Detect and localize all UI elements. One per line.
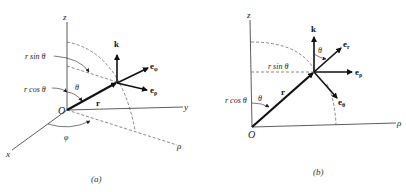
rho-label-b: ρ	[396, 118, 402, 128]
z-axis-b	[250, 20, 252, 127]
x-axis-a	[12, 110, 67, 150]
theta-label-b: θ	[258, 94, 262, 103]
theta-label-a: θ	[75, 83, 79, 92]
r-cos-leader-a	[52, 88, 67, 92]
r-sin-theta-label-b: r sin θ	[268, 62, 288, 71]
panel-a: z y x ρ O r r sin θ r cos θ θ φ k eφ eρ …	[5, 12, 188, 184]
z-label-a: z	[62, 12, 67, 22]
rho-axis-a	[67, 110, 177, 145]
r-sin-theta-label-a: r sin θ	[25, 52, 45, 61]
rho-axis-b	[252, 123, 396, 127]
e-rho-label-a: eρ	[150, 85, 157, 96]
z-label-b: z	[246, 10, 251, 20]
r-label-a: r	[96, 98, 100, 108]
theta-arc-a	[67, 92, 82, 101]
r-cos-theta-label-b: r cos θ	[225, 96, 247, 105]
arc-b-lower	[327, 84, 336, 125]
r-sin-leader-a	[54, 56, 89, 72]
r-label-b: r	[281, 87, 285, 97]
r-cos-theta-label-a: r cos θ	[24, 85, 46, 94]
origin-label-b: O	[248, 129, 255, 140]
caption-a: (a)	[91, 174, 102, 184]
e-phi-label-a: eφ	[150, 61, 158, 72]
r-sin-dash-a	[67, 66, 117, 82]
phi-label-a: φ	[64, 133, 69, 142]
spherical-coordinates-figure: z y x ρ O r r sin θ r cos θ θ φ k eφ eρ …	[0, 0, 406, 192]
x-label-a: x	[5, 149, 10, 159]
e-r-label-b: er	[343, 39, 350, 50]
y-label-a: y	[183, 102, 188, 112]
panel-b: z ρ O r r sin θ r cos θ θ θ k er eρ eθ (…	[225, 10, 402, 177]
k-label-a: k	[114, 39, 119, 49]
k-label-b: k	[311, 24, 316, 34]
e-phi-vector-a	[117, 68, 148, 83]
theta-arc-b	[252, 103, 269, 107]
theta-top-label-b: θ	[318, 46, 322, 55]
e-rho-vector-a	[117, 83, 147, 90]
y-axis-a	[67, 107, 183, 110]
phi-arc-a	[48, 121, 90, 127]
e-theta-label-b: eθ	[338, 97, 345, 108]
e-theta-vector-b	[314, 72, 337, 98]
rho-label-a: ρ	[176, 141, 182, 151]
caption-b: (b)	[313, 167, 324, 177]
e-rho-label-b: eρ	[355, 67, 362, 78]
origin-label-a: O	[58, 105, 65, 116]
